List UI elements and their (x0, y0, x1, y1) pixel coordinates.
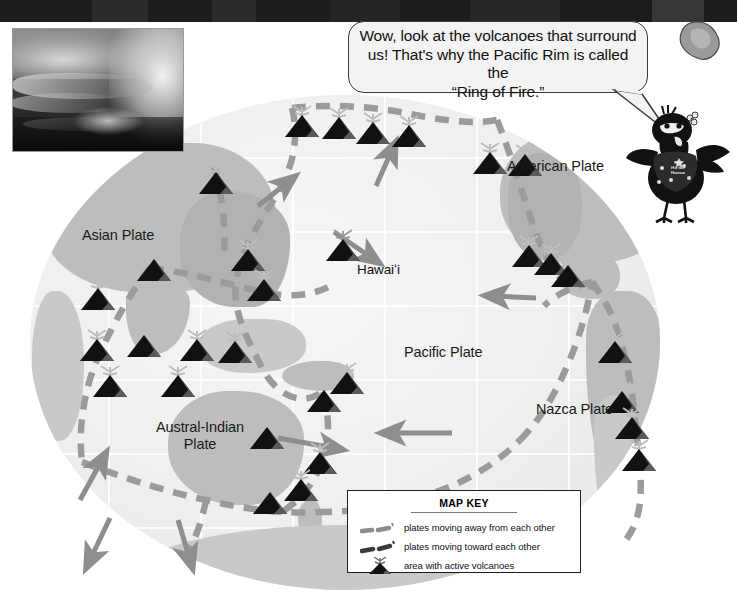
volcano-icon (353, 111, 393, 145)
volcano-icon (250, 481, 290, 515)
speech-line-2: us! That's why the Pacific Rim is called… (357, 46, 639, 83)
map-key-row-volcanoes: area with active volcanoes (356, 556, 572, 575)
plate-label-nazca: Nazca Plate (536, 401, 613, 417)
volcano-icon (548, 254, 588, 288)
plate-label-american: American Plate (507, 158, 604, 174)
bird-shirt-line-3: Honua (660, 170, 696, 175)
place-label-hawaii: Hawaiʻi (357, 262, 400, 277)
volcano-icon-legend (360, 557, 404, 575)
volcano-icon (228, 238, 268, 272)
map-key-row-converging: plates moving toward each other (356, 537, 572, 556)
plate-label-asian: Asian Plate (82, 227, 154, 243)
map-key-label-converging: plates moving toward each other (404, 541, 540, 552)
volcano-icon (158, 364, 198, 398)
volcano-icon (612, 406, 652, 440)
map-key-title: MAP KEY (356, 497, 572, 509)
volcano-icon (304, 379, 344, 413)
volcano-icon (470, 141, 510, 175)
plate-label-austral-indian: Austral-Indian Plate (152, 419, 248, 453)
page-canvas: Asian Plate American Plate Pacific Plate… (0, 0, 737, 601)
volcano-icon (77, 328, 117, 362)
hawaii-island-silhouette (676, 18, 724, 62)
volcano-icon (282, 104, 322, 138)
volcano-icon (247, 416, 287, 450)
map-key-divider (411, 512, 517, 513)
volcano-icon (619, 438, 659, 472)
arrow-north (376, 150, 392, 186)
plate-label-pacific: Pacific Plate (404, 344, 483, 360)
dashed-line-converging-icon (360, 538, 404, 556)
volcano-icon (124, 324, 164, 358)
speech-line-3: “Ring of Fire.” (357, 83, 639, 102)
volcano-icon (389, 114, 429, 148)
map-key-row-diverging: plates moving away from each other (356, 518, 572, 537)
volcano-icon (90, 364, 130, 398)
bird-shirt-text: Hui Hōʻike Honua (660, 160, 696, 175)
volcano-eruption-photo (12, 28, 184, 152)
arrow-southwest-down (90, 518, 110, 560)
arrow-south (178, 520, 190, 560)
volcano-icon (215, 330, 255, 364)
volcano-icon (177, 328, 217, 362)
volcano-icon (244, 268, 284, 302)
arrow-west (494, 296, 536, 298)
volcano-icon (78, 277, 118, 311)
map-key-panel: MAP KEY plates moving away from each oth… (347, 490, 581, 573)
dashed-line-diverging-icon (360, 519, 404, 537)
speech-line-1: Wow, look at the volcanoes that surround (357, 27, 639, 46)
volcano-icon-hawaii (323, 228, 363, 262)
speech-bubble: Wow, look at the volcanoes that surround… (348, 21, 648, 93)
top-dark-band (0, 0, 737, 22)
volcano-icon (595, 330, 635, 364)
map-key-label-diverging: plates moving away from each other (404, 522, 555, 533)
map-key-label-volcanoes: area with active volcanoes (404, 560, 514, 571)
volcano-icon (196, 161, 236, 195)
volcano-icon (134, 248, 174, 282)
